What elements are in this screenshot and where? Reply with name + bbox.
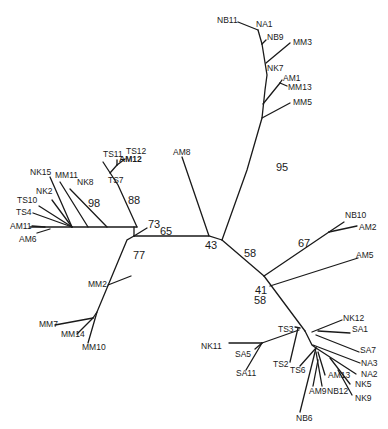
bootstrap-value: 58 <box>244 247 256 259</box>
bootstrap-value: 88 <box>128 194 140 206</box>
taxon-label-na3: NA3 <box>361 358 378 368</box>
taxon-label-nb10: NB10 <box>345 210 367 220</box>
taxon-label-sa5: SA5 <box>235 349 251 359</box>
bootstrap-value: 58 <box>254 294 266 306</box>
branch-sa7 <box>316 335 359 352</box>
branch-95-stem <box>222 44 267 240</box>
branch-mm11 <box>60 182 88 227</box>
branch-mm13 <box>280 83 287 86</box>
phylogenetic-tree: 9543657388987758674158 NB11NA1NB9MM3NK7A… <box>0 0 388 429</box>
bootstrap-value: 95 <box>276 161 288 173</box>
branch-ts12-am12 <box>110 165 117 173</box>
taxon-label-mm11: MM11 <box>55 170 78 180</box>
taxon-label-nb12: NB12 <box>327 386 349 396</box>
branch-nk12 <box>312 320 342 332</box>
taxon-label-am5: AM5 <box>356 250 374 260</box>
taxon-label-mm3: MM3 <box>293 37 312 47</box>
taxon-label-nk7: NK7 <box>267 63 284 73</box>
branch-am5 <box>270 258 358 286</box>
taxon-label-sa1: SA1 <box>352 324 368 334</box>
taxon-label-am2: AM2 <box>359 222 377 232</box>
taxon-label-sa11: SA11 <box>236 368 256 378</box>
taxon-label-am12: AM12 <box>119 154 142 164</box>
taxon-label-am9: AM9 <box>309 386 327 396</box>
taxon-label-am13: AM13 <box>328 370 350 380</box>
taxon-label-ts10: TS10 <box>17 195 38 205</box>
bootstrap-value: 67 <box>298 237 310 249</box>
taxon-label-am6: AM6 <box>19 234 37 244</box>
branch-am6 <box>37 229 50 233</box>
bootstrap-value: 43 <box>205 239 217 251</box>
branch-nb9 <box>262 40 266 44</box>
taxon-label-na1: NA1 <box>256 19 273 29</box>
taxon-labels: NB11NA1NB9MM3NK7AM1MM13MM5AM8TS11TS12AM1… <box>10 15 378 423</box>
bootstrap-value: 77 <box>133 249 145 261</box>
taxon-label-am11: AM11 <box>10 221 32 231</box>
taxon-label-nk12: NK12 <box>343 313 365 323</box>
branch-73-stem <box>134 228 147 236</box>
branch-am8 <box>182 157 209 236</box>
branch-nb11 <box>238 22 258 30</box>
taxon-label-nk11: NK11 <box>201 341 222 351</box>
taxon-label-nk2: NK2 <box>36 186 53 196</box>
taxon-label-mm5: MM5 <box>293 97 312 107</box>
taxon-label-mm10: MM10 <box>82 342 106 352</box>
taxon-label-mm2: MM2 <box>88 279 107 289</box>
taxon-label-nb11: NB11 <box>217 15 238 25</box>
branch-na1 <box>258 30 262 44</box>
taxon-label-nk15: NK15 <box>30 167 52 177</box>
taxon-label-mm13: MM13 <box>288 82 312 92</box>
bootstrap-value: 73 <box>148 218 160 230</box>
taxon-label-ts6: TS6 <box>290 365 306 375</box>
branch-mm3 <box>266 43 290 63</box>
taxon-label-nb6: NB6 <box>296 413 313 423</box>
branch-am9 <box>313 360 318 386</box>
taxon-label-nk5: NK5 <box>355 379 372 389</box>
branches <box>30 22 360 412</box>
branch-mm5 <box>262 103 290 118</box>
bootstrap-value: 65 <box>160 225 172 237</box>
branch-sa1 <box>318 331 350 333</box>
taxon-label-nb9: NB9 <box>267 32 284 42</box>
taxon-label-na2: NA2 <box>361 369 378 379</box>
taxon-label-nk9: NK9 <box>355 393 372 403</box>
taxon-label-ts3: TS3 <box>278 324 294 334</box>
taxon-label-nk8: NK8 <box>77 177 94 187</box>
bootstrap-value: 98 <box>88 197 100 209</box>
taxon-label-mm14: MM14 <box>61 329 85 339</box>
branch-mm10 <box>88 312 97 343</box>
taxon-label-am8: AM8 <box>173 147 191 157</box>
branch-58-lower <box>264 276 305 331</box>
branch-67 <box>264 232 329 276</box>
taxon-label-mm7: MM7 <box>39 319 58 329</box>
taxon-label-ts2: TS2 <box>273 359 289 369</box>
taxon-label-ts7: TS7 <box>108 175 124 185</box>
branch-58-upper <box>222 240 264 276</box>
taxon-label-ts4: TS4 <box>16 207 32 217</box>
taxon-label-sa7: SA7 <box>360 345 376 355</box>
